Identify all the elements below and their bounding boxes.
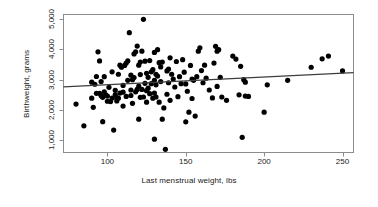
data-point [320,56,325,61]
data-point [155,73,160,78]
data-point [138,60,143,65]
data-point [120,90,125,95]
data-point [100,119,105,124]
data-point [177,74,182,79]
data-point [178,81,183,86]
data-point [185,89,190,94]
data-point [124,94,129,99]
scatter-plot-figure: Birthweight, grams Last menstrual weight… [0,0,378,207]
data-point [152,137,157,142]
data-point [210,95,215,100]
data-point [163,147,168,152]
data-point [246,94,251,99]
data-point [92,82,97,87]
data-point [161,105,166,110]
data-point [130,101,135,106]
data-point [133,49,138,54]
data-point [309,65,314,70]
data-point [141,17,146,22]
trend-line [64,73,354,87]
data-point [202,63,207,68]
data-point [243,80,248,85]
data-point [211,60,216,65]
plot-canvas [0,0,378,207]
data-point [91,105,96,110]
data-point [326,53,331,58]
data-point [197,45,202,50]
data-point [147,58,152,63]
data-point [105,93,110,98]
data-point [138,72,143,77]
data-point [166,80,171,85]
data-point [127,30,132,35]
data-point [128,87,133,92]
data-point [106,85,111,90]
data-point [89,96,94,101]
data-point [113,88,118,93]
data-point [219,94,224,99]
data-point [147,91,152,96]
data-point [285,78,290,83]
data-point [116,72,121,77]
data-point [139,49,144,54]
data-point [109,69,114,74]
data-point [233,56,238,61]
data-point [135,43,140,48]
data-point [164,92,169,97]
data-point [238,64,243,69]
data-point [167,55,172,60]
data-point [215,84,220,89]
data-point [120,104,125,109]
data-point [169,72,174,77]
data-point [160,117,165,122]
data-point [199,68,204,73]
data-point [139,87,144,92]
data-point [142,59,147,64]
data-point [167,98,172,103]
data-point [99,79,104,84]
data-point [188,63,193,68]
data-point [158,64,163,69]
regression-line [64,73,354,87]
data-point [174,59,179,64]
data-point [94,74,99,79]
data-point [183,119,188,124]
data-point [224,98,229,103]
data-point [153,94,158,99]
data-point [125,58,130,63]
data-point [111,127,116,132]
data-point [193,114,198,119]
data-point [240,135,245,140]
data-point [81,123,86,128]
data-point [136,117,141,122]
data-point [160,60,165,65]
data-point [125,78,130,83]
data-point [262,110,267,115]
data-point [131,75,136,80]
data-point [146,86,151,91]
data-point [97,58,102,63]
data-point [157,100,162,105]
data-point [166,66,171,71]
data-point [194,74,199,79]
data-point [182,70,187,75]
data-point [155,47,160,52]
data-point [73,102,78,107]
data-point [175,94,180,99]
data-point [102,74,107,79]
data-point [144,100,149,105]
data-point [207,87,212,92]
data-point [186,110,191,115]
data-point [183,81,188,86]
data-point [146,75,151,80]
data-point [200,80,205,85]
data-point [236,92,241,97]
data-point [180,57,185,62]
axis-tickmarks [60,20,344,157]
data-point [216,47,221,52]
data-point [128,93,133,98]
data-point [153,82,158,87]
data-point [95,49,100,54]
data-point [265,82,270,87]
plot-frame [64,15,354,153]
